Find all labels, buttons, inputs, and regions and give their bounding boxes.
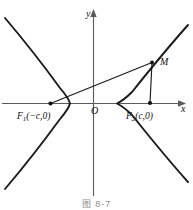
y-axis-arrowhead [90, 9, 96, 17]
focus-right-label: F2(c,0) [126, 112, 153, 122]
hyperbola-figure: y x O M F1(−c,0) F2(c,0) 图 8-7 [0, 0, 193, 210]
focus-left-dot [48, 101, 52, 105]
point-M-dot [150, 61, 154, 65]
figure-caption: 图 8-7 [0, 197, 193, 210]
segment-M-F1 [51, 63, 153, 104]
axes-group [2, 9, 186, 196]
focus-left-label: F1(−c,0) [17, 112, 50, 122]
y-axis-label: y [86, 9, 90, 19]
focal-segments [51, 63, 153, 104]
origin-label: O [91, 106, 98, 116]
x-axis-label: x [181, 104, 185, 114]
point-m-label: M [160, 57, 168, 67]
focus-left-label-coords: (−c,0) [26, 111, 50, 121]
focus-right-label-coords: (c,0) [135, 111, 153, 121]
focus-right-dot [148, 101, 152, 105]
